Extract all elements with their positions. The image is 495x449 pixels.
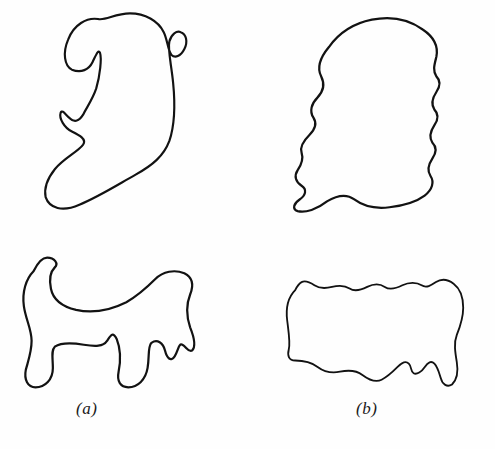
lower-left-contour xyxy=(12,250,202,395)
upper-left-contour-svg xyxy=(40,2,190,217)
figure-page: (a) (b) xyxy=(0,0,495,449)
upper-right-contour xyxy=(288,8,448,218)
lower-right-contour xyxy=(268,252,468,397)
lower-left-contour-path xyxy=(23,258,194,388)
lower-left-contour-svg xyxy=(12,250,202,395)
lower-right-contour-path xyxy=(287,280,463,386)
panel-label-a: (a) xyxy=(76,399,97,419)
upper-left-contour-path xyxy=(45,13,186,208)
upper-right-contour-svg xyxy=(288,8,448,218)
panel-label-b: (b) xyxy=(356,399,377,419)
upper-right-contour-path xyxy=(294,18,439,211)
lower-right-contour-svg xyxy=(268,252,468,397)
upper-left-contour xyxy=(40,2,190,217)
